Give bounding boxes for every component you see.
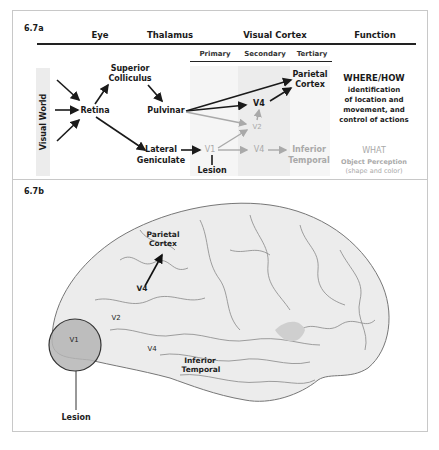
brain-parietal-cortex-2: Cortex xyxy=(145,239,181,248)
brain-v4-upper: V4 xyxy=(134,284,150,293)
brain-inferior-temporal-2: Temporal xyxy=(178,365,224,374)
brain-parietal-cortex-1: Parietal xyxy=(145,230,181,239)
brain-lesion: Lesion xyxy=(56,413,96,422)
brain-v4-lower: V4 xyxy=(144,345,160,354)
brain-illustration xyxy=(0,0,439,450)
brain-v1: V1 xyxy=(66,336,82,345)
brain-v2: V2 xyxy=(108,314,124,323)
brain-inferior-temporal-1: Inferior xyxy=(180,356,220,365)
